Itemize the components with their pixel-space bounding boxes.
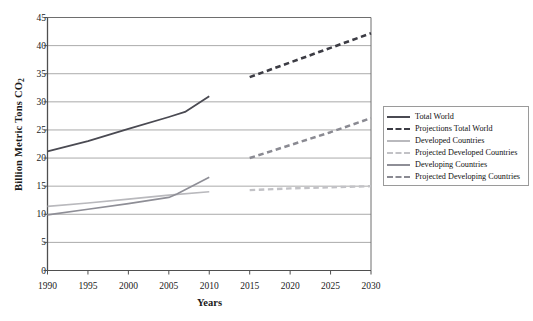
legend-item-projections-total-world[interactable]: Projections Total World: [386, 122, 525, 134]
x-tick-label-2005: 2005: [149, 281, 189, 291]
legend-swatch-dashed-icon: [386, 171, 411, 181]
legend-item-label: Developed Countries: [415, 135, 484, 146]
axis-frame: [48, 18, 372, 271]
x-axis-title: Years: [48, 297, 371, 308]
x-tick-label-1995: 1995: [68, 281, 108, 291]
series-line-total-world: [48, 96, 210, 151]
x-tick-label-2000: 2000: [108, 281, 148, 291]
legend-item-projected-developed-countries[interactable]: Projected Developed Countries: [386, 146, 525, 158]
x-tick-label-2015: 2015: [230, 281, 270, 291]
legend-item-projected-developing-countries[interactable]: Projected Developing Countries: [386, 170, 525, 182]
legend-item-label: Projected Developed Countries: [415, 147, 517, 158]
legend-item-label: Projections Total World: [415, 123, 493, 134]
x-axis-tick-labels: 199019952000200520102015202020252030: [0, 281, 533, 297]
legend-item-developing-countries[interactable]: Developing Countries: [386, 158, 525, 170]
series-line-projected-developing-countries: [250, 118, 371, 158]
x-tick-label-2010: 2010: [189, 281, 229, 291]
x-tick-label-2030: 2030: [351, 281, 391, 291]
legend-swatch-dashed-icon: [386, 123, 411, 133]
legend-item-label: Total World: [415, 111, 454, 122]
series-line-projections-total-world: [250, 33, 371, 77]
grid-lines: [48, 18, 372, 271]
x-tick-label-2020: 2020: [270, 281, 310, 291]
x-tick-label-1990: 1990: [28, 281, 68, 291]
series-line-developing-countries: [48, 177, 210, 215]
legend-item-total-world[interactable]: Total World: [386, 110, 525, 122]
chart-legend: Total WorldProjections Total WorldDevelo…: [383, 106, 529, 186]
co2-emissions-line-chart: Billion Metric Tons CO2 0510152025303540…: [0, 0, 533, 321]
legend-swatch-solid-icon: [386, 111, 411, 121]
legend-swatch-solid-icon: [386, 159, 411, 169]
legend-item-label: Developing Countries: [415, 159, 487, 170]
data-series-group: [48, 33, 372, 215]
legend-swatch-solid-icon: [386, 135, 411, 145]
series-line-projected-developed-countries: [250, 186, 371, 190]
legend-item-developed-countries[interactable]: Developed Countries: [386, 134, 525, 146]
x-tick-marks: [48, 271, 372, 275]
legend-swatch-dashed-icon: [386, 147, 411, 157]
legend-item-label: Projected Developing Countries: [415, 171, 520, 182]
x-tick-label-2025: 2025: [311, 281, 351, 291]
